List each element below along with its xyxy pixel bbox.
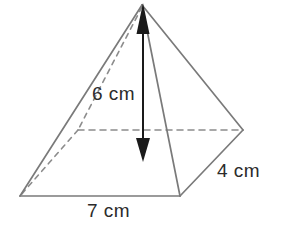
width-dimension-label: 7 cm xyxy=(87,201,130,220)
pyramid-diagram xyxy=(0,0,281,233)
depth-dimension-label: 4 cm xyxy=(217,161,260,180)
height-dimension-label: 6 cm xyxy=(92,84,135,103)
diagram-background xyxy=(0,0,281,233)
